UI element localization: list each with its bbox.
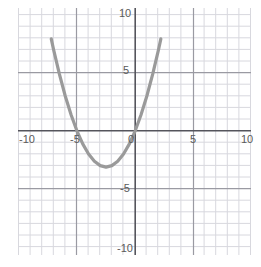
x-tick-label-neg10: -10 (19, 134, 35, 145)
y-tick-label-neg5: -5 (120, 183, 130, 194)
parabola-curve (51, 39, 161, 167)
x-tick-label-0: 0 (128, 134, 134, 145)
graph-figure: -10 -5 0 5 10 10 5 -5 -10 (0, 0, 261, 267)
y-tick-label-5: 5 (123, 65, 129, 76)
x-tick-label-5: 5 (190, 134, 196, 145)
y-tick-label-neg10: -10 (117, 243, 133, 254)
y-tick-label-10: 10 (119, 8, 131, 19)
x-tick-label-neg5: -5 (70, 134, 80, 145)
x-tick-label-10: 10 (241, 134, 253, 145)
